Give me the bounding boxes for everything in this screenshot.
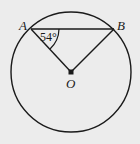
point-label-a: A <box>18 18 27 33</box>
point-label-o: O <box>66 76 76 91</box>
angle-label-a: 54° <box>40 30 57 44</box>
circle-diagram: A B O 54° <box>0 0 140 144</box>
diagram-canvas: A B O 54° <box>0 0 140 144</box>
center-point-o <box>69 70 74 75</box>
point-label-b: B <box>117 18 125 33</box>
radius-ob <box>71 29 114 72</box>
